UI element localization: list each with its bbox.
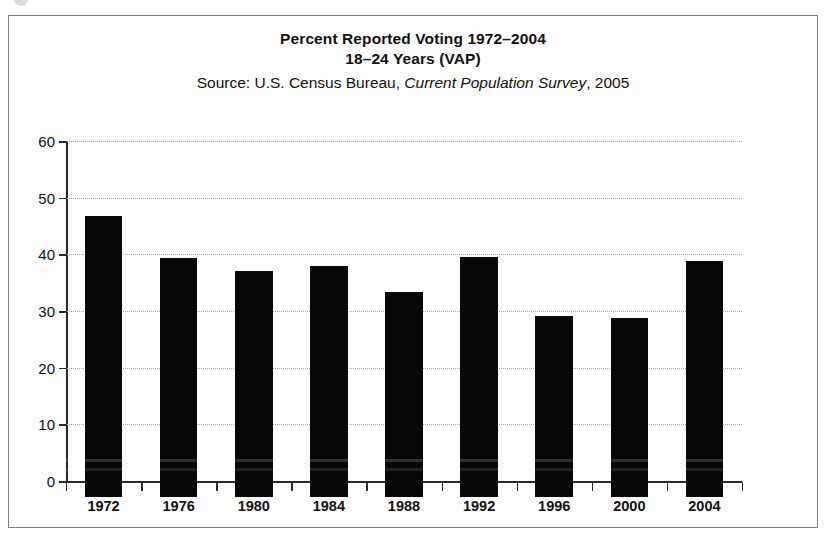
bar [686, 261, 724, 497]
bar [310, 266, 348, 497]
y-axis-label: 60 [38, 133, 55, 150]
x-axis-tick [592, 482, 593, 491]
y-axis-tick [59, 198, 67, 200]
figure-frame: Percent Reported Voting 1972–2004 18–24 … [8, 15, 818, 528]
bar [460, 257, 498, 497]
y-axis-label: 20 [38, 359, 55, 376]
x-axis-tick [667, 482, 668, 491]
source-suffix: , 2005 [586, 74, 629, 91]
x-axis-label: 1976 [163, 498, 195, 514]
grid-line [66, 198, 742, 200]
source-prefix: Source: U.S. Census Bureau, [197, 74, 405, 91]
y-axis-tick [59, 368, 67, 370]
y-axis-tick [59, 141, 67, 143]
grid-line [66, 254, 742, 256]
x-axis-label: 1996 [538, 498, 570, 514]
x-axis-tick [742, 482, 743, 491]
bar [535, 316, 573, 497]
x-axis-label: 2004 [688, 498, 720, 514]
x-axis-tick [442, 482, 443, 491]
x-axis-label: 1984 [313, 498, 345, 514]
bar [611, 318, 649, 497]
bar [235, 271, 273, 497]
x-axis-label: 2000 [613, 498, 645, 514]
y-axis-label: 30 [38, 303, 55, 320]
x-axis-tick [141, 482, 142, 491]
bar [385, 292, 423, 497]
x-axis-label: 1980 [238, 498, 270, 514]
y-axis-label: 50 [38, 189, 55, 206]
y-axis-label: 10 [38, 416, 55, 433]
y-axis-label: 40 [38, 246, 55, 263]
chart-title-block: Percent Reported Voting 1972–2004 18–24 … [9, 29, 817, 94]
x-axis-label: 1988 [388, 498, 420, 514]
x-axis-label: 1972 [87, 498, 119, 514]
chart-title-line-1: Percent Reported Voting 1972–2004 [9, 29, 817, 49]
chart-title-line-2: 18–24 Years (VAP) [9, 49, 817, 69]
source-publication: Current Population Survey [404, 74, 586, 91]
y-axis-tick [59, 254, 67, 256]
x-axis-label: 1992 [463, 498, 495, 514]
x-axis-tick [366, 482, 367, 491]
scan-artifact [14, 0, 28, 6]
x-axis-tick [66, 482, 67, 491]
y-axis-tick [59, 311, 67, 313]
y-axis-label: 0 [47, 473, 55, 490]
x-axis-tick [216, 482, 217, 491]
bar [160, 258, 198, 497]
y-axis-tick [59, 424, 67, 426]
chart-source-line: Source: U.S. Census Bureau, Current Popu… [9, 71, 817, 94]
plot-area: 0102030405060 19721976198019841988199219… [66, 141, 742, 497]
bar [85, 216, 123, 497]
x-axis-tick [291, 482, 292, 491]
grid-line [66, 141, 742, 143]
x-axis-tick [517, 482, 518, 491]
